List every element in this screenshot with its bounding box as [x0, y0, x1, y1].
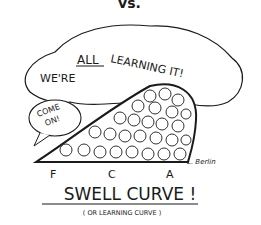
cartoon-canvas: vs. WE'RE ALL LEARNING IT! COME ON! L. B… [0, 0, 261, 225]
bubble-text-learning: LEARNING IT! [109, 52, 184, 80]
bubble-text-all: ALL [77, 53, 99, 67]
signature: L. Berlin [187, 158, 216, 166]
subtitle-text: ( OR LEARNING CURVE ) [83, 209, 161, 217]
title-text: SWELL CURVE ! [64, 184, 196, 204]
bubble-text: WE'RE [40, 72, 75, 85]
top-fragment-text: vs. [118, 0, 141, 11]
cartoon-drawing: vs. WE'RE ALL LEARNING IT! COME ON! L. B… [0, 0, 261, 225]
grade-c: C [108, 168, 116, 181]
grade-a: A [166, 168, 174, 181]
grade-f: F [50, 168, 56, 181]
small-bubble-tail [34, 133, 50, 146]
